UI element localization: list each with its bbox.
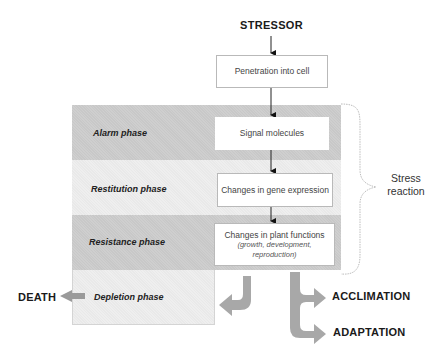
stressor-label: STRESSOR [240, 19, 303, 31]
stress-reaction-line1: Stress [378, 172, 434, 185]
adaptation-label: ADAPTATION [333, 326, 405, 338]
to-depletion-arrow-icon [219, 276, 251, 316]
gene-expression-box: Changes in gene expression [217, 173, 333, 207]
signal-molecules-box: Signal molecules [215, 117, 329, 150]
plant-functions-label: Changes in plant functions [224, 230, 324, 241]
alarm-phase-label: Alarm phase [93, 128, 147, 138]
signal-molecules-label: Signal molecules [240, 128, 304, 139]
stress-reaction-label: Stress reaction [378, 172, 434, 197]
penetration-box: Penetration into cell [216, 55, 328, 88]
stress-reaction-line2: reaction [378, 185, 434, 198]
death-label: DEATH [18, 291, 56, 303]
to-acclimation-adaptation-arrow-icon [290, 272, 326, 344]
resistance-phase-label: Resistance phase [89, 237, 165, 247]
gene-expression-label: Changes in gene expression [221, 185, 329, 196]
restitution-phase-label: Restitution phase [91, 184, 167, 194]
acclimation-label: ACCLIMATION [332, 290, 410, 302]
penetration-label: Penetration into cell [235, 66, 310, 77]
stress-reaction-bracket [341, 104, 376, 274]
plant-functions-sublabel: (growth, development, reproduction) [227, 240, 322, 259]
death-arrow-icon [60, 290, 85, 302]
depletion-phase-label: Depletion phase [94, 292, 164, 302]
plant-functions-box: Changes in plant functions (growth, deve… [214, 223, 335, 266]
